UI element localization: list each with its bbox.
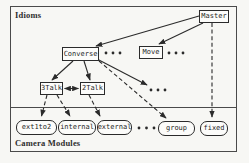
arrow-converse-to-3talk <box>52 61 73 80</box>
node-master: Master <box>199 10 229 23</box>
node-2talk: 2Talk <box>80 82 105 95</box>
ellipsis-right-of-move <box>168 52 185 55</box>
arrow-2talk-to-external <box>89 95 100 116</box>
ellipsis-modules <box>138 127 156 130</box>
arrow-3talk-to-ext1to2 <box>42 95 48 116</box>
node-3talk: 3Talk <box>40 82 63 95</box>
ellipsis-subidioms <box>150 89 167 92</box>
ellipsis-right-of-converse <box>105 52 122 55</box>
node-converse: Converse <box>62 47 99 61</box>
arrow-converse-to-group <box>99 61 166 118</box>
region-label-camera-modules: Camera Modules <box>15 138 80 148</box>
arrow-converse-to-2talk <box>84 61 90 80</box>
arrow-master-to-converse <box>96 16 199 46</box>
module-fixed: fixed <box>200 121 228 136</box>
ellipsis-dots <box>105 52 185 130</box>
module-group: group <box>158 121 195 136</box>
figure-canvas: Idioms Camera Modules Master Converse Mo… <box>0 0 249 163</box>
arrow-3talk-to-internal <box>57 95 70 116</box>
module-ext1to2: ext1to2 <box>16 120 57 135</box>
node-move: Move <box>139 46 163 59</box>
module-external: external <box>97 120 132 135</box>
module-internal: internal <box>58 120 96 135</box>
region-label-idioms: Idioms <box>15 10 41 20</box>
